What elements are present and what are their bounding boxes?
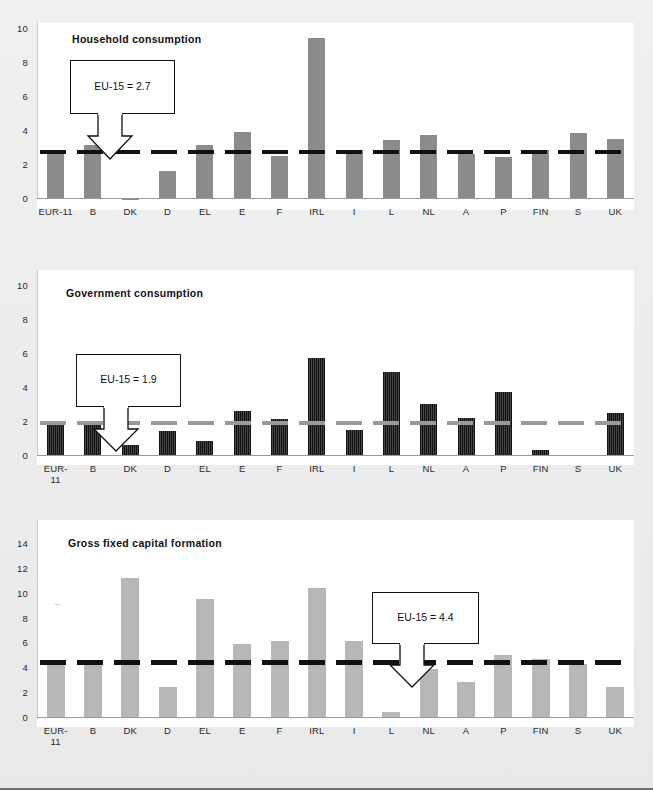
x-tick-label-line: S [575, 463, 582, 474]
x-tick-label-line: E [239, 206, 246, 217]
reference-line-segment [595, 150, 621, 155]
x-tick-label-line: B [90, 463, 97, 474]
y-tick-label: 14 [2, 539, 28, 548]
y-axis-line-government [37, 270, 38, 455]
x-tick-label-line: I [353, 463, 356, 474]
reference-line-segment [373, 421, 399, 425]
reference-line-segment [447, 150, 473, 155]
callout-government: EU-15 = 1.9 [76, 354, 181, 439]
bar [308, 38, 325, 198]
reference-line-segment [410, 150, 436, 155]
x-tick-label: EL [199, 725, 211, 736]
x-tick-label-line: EL [199, 463, 211, 474]
x-tick-label: L [389, 206, 394, 217]
y-tick-label: 6 [2, 349, 28, 358]
reference-line-segment [299, 150, 325, 155]
y-tick-label: 0 [2, 194, 28, 203]
figure-page: 0246810 EUR-11BDKDELEFIRLILNLAPFINSUK Ho… [0, 0, 653, 790]
x-tick-label-line: FIN [533, 463, 549, 474]
reference-line-segment [336, 660, 362, 665]
x-tick-label-line: EUR-11 [39, 206, 73, 217]
x-tick-label: EL [199, 463, 211, 474]
bar [47, 154, 64, 198]
x-tick-label: S [575, 463, 582, 474]
x-tick-label: IRL [309, 725, 324, 736]
x-tick-label: DK [123, 463, 137, 474]
y-tick-label: 12 [2, 563, 28, 572]
x-tick-label: A [463, 206, 470, 217]
reference-line-segment [595, 421, 621, 425]
x-tick-label: IRL [309, 463, 324, 474]
x-tick-label: I [353, 463, 356, 474]
reference-line-segment [410, 421, 436, 425]
bar [196, 441, 213, 455]
bar [196, 599, 214, 717]
reference-line-segment [558, 660, 584, 665]
reference-line-segment [151, 660, 177, 665]
reference-line-segment [40, 421, 66, 425]
x-tick-label-line: IRL [309, 463, 324, 474]
reference-line-segment [373, 150, 399, 155]
reference-line-segment [595, 660, 621, 665]
x-tick-label-line: F [277, 206, 283, 217]
x-tick-label: P [500, 725, 507, 736]
x-tick-label-line: D [164, 206, 171, 217]
x-tick-label: NL [423, 463, 436, 474]
x-tick-label: L [389, 725, 394, 736]
x-tick-label-line: NL [423, 206, 436, 217]
x-tick-label-line: UK [609, 725, 623, 736]
x-tick-label-line: DK [123, 725, 137, 736]
bar [233, 644, 251, 717]
x-tick-label-line: D [164, 463, 171, 474]
reference-line-segment [188, 660, 214, 665]
callout-arrow-gfcf [372, 592, 479, 677]
x-tick-label-line: IRL [309, 725, 324, 736]
y-tick-label: 2 [2, 417, 28, 426]
y-tick-label: 4 [2, 126, 28, 135]
bar [234, 132, 251, 198]
x-tick-label: S [575, 725, 582, 736]
reference-line-segment [336, 421, 362, 425]
x-tick-label-line: P [500, 206, 507, 217]
reference-line-segment [558, 421, 584, 425]
x-tick-label-line: EL [199, 725, 211, 736]
callout-gfcf: EU-15 = 4.4 [372, 592, 479, 677]
x-tick-label: UK [609, 206, 623, 217]
bar [47, 662, 65, 717]
x-tick-label: I [353, 206, 356, 217]
y-tick-label: 0 [2, 451, 28, 460]
reference-line-segment [77, 660, 103, 665]
reference-line-segment [484, 421, 510, 425]
bar [122, 445, 139, 455]
x-tick-label: F [277, 206, 283, 217]
x-tick-label-line: A [463, 725, 470, 736]
bar [346, 150, 363, 198]
x-tick-label: I [353, 725, 356, 736]
reference-line-segment [262, 150, 288, 155]
x-tick-label-line: B [90, 725, 97, 736]
reference-line-segment [188, 150, 214, 155]
bar [234, 411, 251, 455]
reference-line-segment [262, 660, 288, 665]
x-tick-label-line: EUR- [44, 725, 68, 736]
callout-arrow-household [70, 60, 175, 145]
reference-line-segment [447, 421, 473, 425]
x-tick-label: E [239, 463, 246, 474]
y-tick-label: 6 [2, 92, 28, 101]
x-tick-label: EUR-11 [44, 725, 68, 747]
x-tick-label: FIN [533, 463, 549, 474]
y-tick-label: 2 [2, 160, 28, 169]
x-tick-label: D [164, 725, 171, 736]
reference-line-segment [484, 660, 510, 665]
x-tick-label-line: FIN [533, 725, 549, 736]
chart-title-household: Household consumption [72, 33, 201, 45]
y-tick-label: 2 [2, 688, 28, 697]
reference-line-segment [114, 660, 140, 665]
x-tick-label-line: S [575, 206, 582, 217]
x-tick-label-line: UK [609, 463, 623, 474]
bar [159, 687, 177, 717]
x-axis-line-household [37, 198, 634, 199]
x-tick-label-line: IRL [309, 206, 324, 217]
x-tick-label-line: L [389, 463, 394, 474]
x-tick-label: IRL [309, 206, 324, 217]
